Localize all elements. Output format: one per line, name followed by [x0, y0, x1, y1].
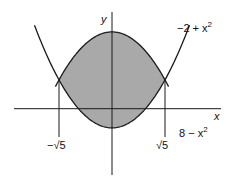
y-axis-label: y [101, 14, 107, 25]
tick-label-minus-sqrt5: −√5 [47, 140, 66, 151]
upper-parabola-label: 8 − x2 [179, 128, 208, 139]
lower-parabola-label: −2 + x2 [177, 23, 212, 34]
x-axis-label: x [214, 111, 220, 122]
region-between-parabolas-diagram: y x −2 + x2 8 − x2 −√5 √5 [0, 0, 231, 183]
tick-label-sqrt5: √5 [156, 140, 168, 151]
